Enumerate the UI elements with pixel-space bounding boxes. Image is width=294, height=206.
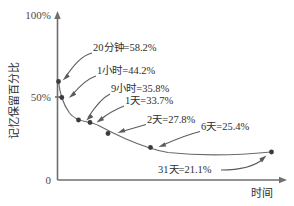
y-tick-label-0: 0 [46,174,52,186]
data-point-31day[interactable] [269,150,274,155]
annotation-9hour: 9小时=35.8% [111,83,170,94]
data-point-20min[interactable] [56,79,61,84]
x-axis-arrow [279,177,287,183]
leader-1hour [72,76,96,95]
leader-arrow-2day [118,128,126,133]
data-point-1hour[interactable] [59,95,64,100]
annotation-2day: 2天=27.8% [147,114,196,125]
leader-arrow-6day [159,142,167,147]
data-point-2day[interactable] [106,131,111,136]
data-point-1day[interactable] [88,120,93,125]
annotation-1day: 1天=33.7% [125,95,174,106]
data-point-9hour[interactable] [76,118,81,123]
data-point-6day[interactable] [148,145,153,150]
leader-20min [65,53,92,78]
leader-31day [221,159,263,170]
y-tick-label-100: 100% [25,9,51,21]
x-axis-title: 时间 [251,187,273,199]
leader-2day [122,125,146,132]
y-axis-arrow [54,11,60,19]
annotation-20min: 20分钟=58.2% [93,41,157,53]
leader-arrow-20min [63,73,70,80]
forgetting-curve-figure: 100% 50% 0 记忆保留百分比 时间 [0,0,294,206]
annotation-1hour: 1小时=44.2% [97,65,156,76]
leader-6day [163,132,200,146]
y-tick-label-50: 50% [31,91,51,103]
annotation-31day: 31天=21.1% [158,164,212,175]
leader-9hour [88,94,110,118]
y-axis-title: 记忆保留百分比 [7,62,20,139]
annotation-6day: 6天=25.4% [201,121,250,132]
leader-1day [100,106,124,120]
chart-canvas: 100% 50% 0 记忆保留百分比 时间 [0,0,294,206]
